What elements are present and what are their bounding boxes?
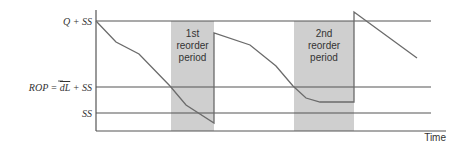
q-plus-ss-label: Q + SS bbox=[63, 16, 92, 27]
band-1-label-line3: period bbox=[179, 52, 207, 63]
band-1-label-line2: reorder bbox=[176, 40, 209, 51]
rop-label: ROP = dL + SS bbox=[28, 82, 92, 93]
band-1-label-line1: 1st bbox=[186, 28, 200, 39]
rop-prefix: ROP = bbox=[28, 82, 60, 93]
inventory-diagram: 1st reorder period 2nd reorder period Q … bbox=[0, 0, 466, 149]
inventory-curve bbox=[96, 12, 417, 123]
time-label: Time bbox=[424, 132, 446, 143]
band-2-label-line3: period bbox=[310, 52, 338, 63]
ss-label: SS bbox=[82, 108, 92, 119]
rop-suffix: + SS bbox=[70, 82, 92, 93]
rop-dl: dL bbox=[60, 82, 71, 93]
band-2-label-line1: 2nd bbox=[316, 28, 333, 39]
band-2-label-line2: reorder bbox=[308, 40, 341, 51]
